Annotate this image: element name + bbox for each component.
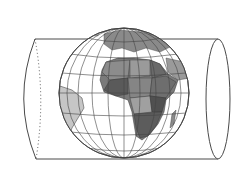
- cylinder-end-right: [206, 39, 230, 159]
- globe: [59, 28, 190, 158]
- cylinder-front-edge-left: [24, 39, 36, 159]
- projection-diagram: [0, 0, 248, 184]
- diagram-canvas: [0, 0, 248, 184]
- cylinder-back-edge-left: [35, 39, 41, 159]
